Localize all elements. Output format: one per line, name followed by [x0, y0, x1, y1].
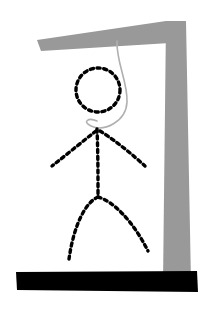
hangman-scene: Hangman Hangman gallows with fully drawn… [0, 0, 214, 316]
gallows-ground-base [16, 271, 198, 292]
figure-torso [97, 129, 98, 197]
hangman-illustration [0, 0, 214, 316]
